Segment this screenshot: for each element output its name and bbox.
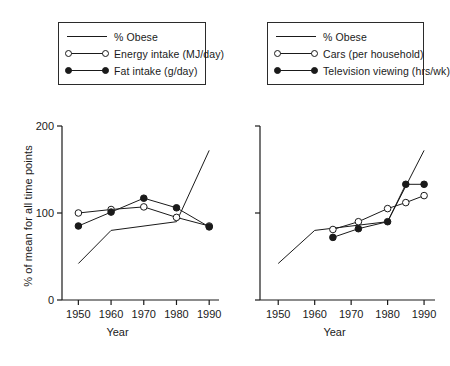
data-point-marker (75, 223, 82, 230)
chart-panel-left: 010020019501960197019801990 % of mean fo… (10, 118, 225, 348)
x-axis-label-left: Year (10, 326, 225, 338)
legend-left-label-1: Energy intake (MJ/day) (114, 48, 224, 60)
data-point-marker (75, 210, 82, 217)
legend-right-label-0: % Obese (323, 31, 367, 43)
legend-right: % Obese Cars (per household) Television … (267, 22, 424, 85)
y-tick-label: 200 (36, 120, 54, 132)
data-point-marker (421, 192, 428, 199)
data-point-marker (330, 226, 337, 233)
series-line (278, 150, 424, 263)
data-point-marker (355, 218, 362, 225)
data-point-marker (141, 195, 148, 202)
x-tick-label: 1980 (375, 308, 399, 320)
plot-area-right: 19501960197019801990 (228, 118, 441, 348)
data-point-marker (141, 204, 148, 211)
series-line (333, 184, 424, 237)
y-tick-label: 0 (48, 294, 54, 306)
data-point-marker (108, 209, 115, 216)
y-axis-label: % of mean for all time points (22, 122, 34, 310)
data-point-marker (421, 181, 428, 188)
legend-left-label-2: Fat intake (g/day) (114, 65, 198, 77)
legend-left-item-fat: Fat intake (g/day) (65, 62, 198, 79)
legend-left-item-obese: % Obese (65, 28, 198, 45)
data-point-marker (206, 224, 213, 231)
x-tick-label: 1970 (132, 308, 156, 320)
line-swatch-icon (274, 31, 318, 43)
x-tick-label: 1950 (66, 308, 90, 320)
legend-right-label-2: Television viewing (hrs/wk) (323, 65, 450, 77)
data-point-marker (384, 205, 391, 212)
data-point-marker (384, 218, 391, 225)
data-point-marker (330, 234, 337, 241)
legend-left-label-0: % Obese (114, 31, 158, 43)
data-point-marker (355, 225, 362, 232)
open-circle-swatch-icon (65, 48, 109, 60)
open-circle-swatch-icon (274, 48, 318, 60)
x-tick-label: 1990 (412, 308, 436, 320)
data-point-marker (403, 181, 410, 188)
legend-right-item-tv: Television viewing (hrs/wk) (274, 62, 416, 79)
legend-right-item-cars: Cars (per household) (274, 45, 416, 62)
filled-circle-swatch-icon (274, 65, 318, 77)
legend-left-item-energy: Energy intake (MJ/day) (65, 45, 198, 62)
filled-circle-swatch-icon (65, 65, 109, 77)
x-axis-label-right: Year (228, 326, 441, 338)
series-line (78, 198, 209, 227)
legend-right-item-obese: % Obese (274, 28, 416, 45)
chart-panel-right: 19501960197019801990 Year (228, 118, 441, 348)
x-tick-label: 1950 (266, 308, 290, 320)
data-point-marker (173, 205, 180, 212)
legend-right-label-1: Cars (per household) (323, 48, 424, 60)
data-point-marker (173, 214, 180, 221)
legend-left: % Obese Energy intake (MJ/day) Fat intak… (58, 22, 206, 85)
x-tick-label: 1960 (302, 308, 326, 320)
x-tick-label: 1970 (339, 308, 363, 320)
x-tick-label: 1960 (99, 308, 123, 320)
line-swatch-icon (65, 31, 109, 43)
plot-area-left: 010020019501960197019801990 (10, 118, 225, 348)
y-tick-label: 100 (36, 207, 54, 219)
series-line (333, 196, 424, 230)
data-point-marker (403, 199, 410, 206)
x-tick-label: 1980 (164, 308, 188, 320)
x-tick-label: 1990 (197, 308, 221, 320)
